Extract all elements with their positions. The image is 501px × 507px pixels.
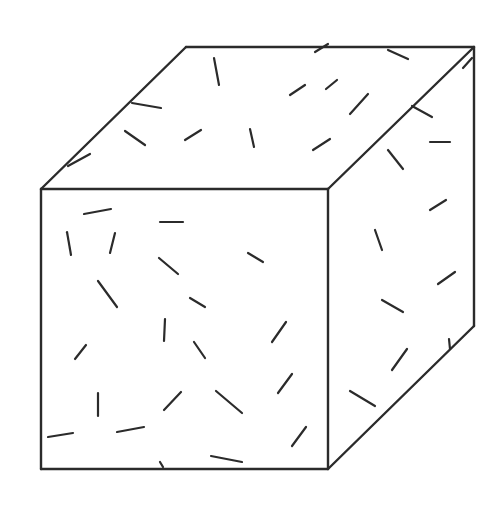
cube-diagram (0, 0, 501, 507)
right-face-dash (449, 339, 450, 349)
front-face (41, 189, 328, 469)
front-face-dash (164, 319, 165, 341)
